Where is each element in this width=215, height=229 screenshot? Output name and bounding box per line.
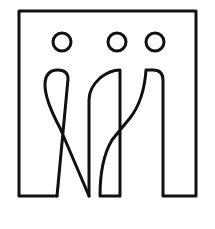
logo-figures-icon (0, 0, 215, 229)
figure-body-left-icon (45, 70, 89, 196)
head-circle-right-icon (146, 33, 164, 51)
head-circle-middle-icon (108, 33, 126, 51)
head-circle-left-icon (53, 33, 71, 51)
